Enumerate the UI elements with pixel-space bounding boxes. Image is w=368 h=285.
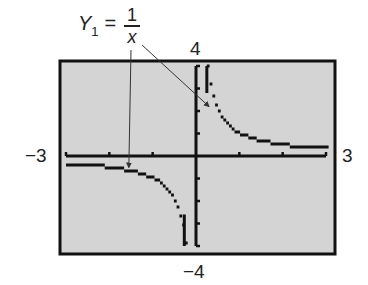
fraction-denominator: x: [124, 28, 140, 46]
equals-sign: =: [105, 12, 117, 34]
graph-figure: Y1= 1 x 4 −4 −3 3: [0, 0, 368, 285]
fraction-numerator: 1: [124, 6, 140, 24]
xmin-label: −3: [25, 146, 47, 165]
ymax-label: 4: [190, 39, 201, 58]
xmax-label: 3: [342, 146, 353, 165]
equation-lhs: Y: [78, 12, 91, 34]
equation-label: Y1=: [78, 12, 122, 35]
equation-subscript: 1: [91, 24, 98, 39]
equation-fraction: 1 x: [124, 6, 140, 46]
ymin-label: −4: [183, 262, 205, 281]
calculator-screen-plot: [0, 0, 368, 285]
